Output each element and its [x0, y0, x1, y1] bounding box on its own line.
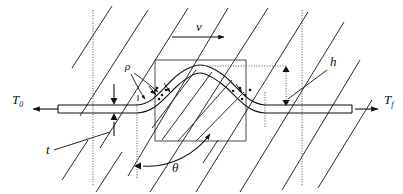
figure-canvas: T0 Tf v ρ h — [0, 0, 403, 194]
height-dimension-arrow — [282, 66, 289, 106]
final-tension-label: Tf — [384, 92, 395, 109]
tension-diagram-svg: T0 Tf v ρ h — [0, 0, 403, 194]
initial-tension-label: T0 — [12, 92, 23, 109]
hatch-pattern-background — [62, 6, 372, 192]
thickness-leader-line — [54, 132, 110, 150]
thickness-dimension-arrow — [111, 84, 118, 136]
height-leader-line — [288, 70, 327, 99]
height-label: h — [330, 54, 337, 69]
radius-label: ρ — [124, 60, 130, 72]
angle-label: θ — [172, 160, 179, 175]
control-volume-box — [155, 60, 246, 141]
thickness-label: t — [46, 142, 50, 157]
velocity-label: v — [196, 19, 202, 34]
